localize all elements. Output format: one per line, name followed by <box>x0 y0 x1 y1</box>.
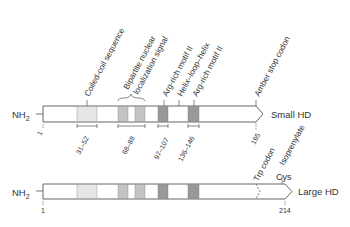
coiled-coil-segment <box>77 107 97 122</box>
coiled-coil-range: 31–52 <box>75 135 90 156</box>
coiled-coil-segment-large <box>77 185 97 199</box>
trp-codon-label: Trp codon <box>252 146 277 183</box>
nls-brace <box>118 94 145 101</box>
domain-diagram: NH2 Coiled-coil sequence Bipartite nucle… <box>0 0 350 227</box>
small-hd-name: Small HD <box>271 109 311 120</box>
small-hd-n-terminus: NH2 <box>12 109 30 122</box>
arg-rich-1-range: 97–107 <box>153 136 170 160</box>
nls-segment-1 <box>118 107 128 122</box>
isoprenylate-label: Isoprenylate <box>278 123 307 167</box>
arg-rich-motif-1-segment-large <box>158 185 168 199</box>
arg-rich-motif-2-segment-large <box>188 185 199 199</box>
large-hd-name: Large HD <box>298 186 339 197</box>
small-hd-bar <box>43 106 263 122</box>
large-hd-start: 1 <box>41 207 45 214</box>
small-hd-end: 195 <box>250 132 262 146</box>
small-hd-start: 1 <box>36 130 44 137</box>
cys-label: Cys <box>276 172 292 182</box>
nls-segment-2-large <box>135 185 145 199</box>
nls-range: 68–88 <box>121 135 136 156</box>
arg-rich-motif-1-segment <box>158 107 168 122</box>
coiled-coil-label: Coiled-coil sequence <box>83 26 127 98</box>
large-hd-end: 214 <box>279 207 291 214</box>
nls-segment-1-large <box>118 185 128 199</box>
amber-stop-codon-label: Amber stop codon <box>253 35 292 98</box>
range-brackets <box>77 124 199 128</box>
small-hd-protein: NH2 Coiled-coil sequence Bipartite nucle… <box>12 26 311 162</box>
large-hd-n-terminus: NH2 <box>12 187 30 200</box>
large-hd-protein: NH2 Trp codon Isoprenylate Cys Large HD … <box>12 123 339 214</box>
nls-segment-2 <box>135 107 145 122</box>
arg-rich-motif-2-segment <box>188 107 199 122</box>
arg-rich-2-range: 136–146 <box>177 135 196 162</box>
